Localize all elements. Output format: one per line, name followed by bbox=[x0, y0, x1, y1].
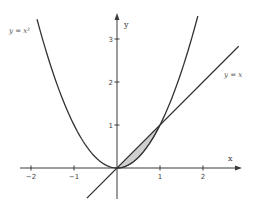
y-axis-arrow-icon bbox=[115, 13, 120, 20]
y-axis-label: y bbox=[123, 20, 129, 29]
y-tick-label: 2 bbox=[109, 79, 113, 87]
line-label: y = x bbox=[223, 71, 242, 79]
y-axis-ticks: 123 bbox=[109, 36, 120, 130]
x-axis-label: x bbox=[228, 154, 233, 163]
parabola-label: y = x² bbox=[8, 27, 30, 35]
x-axis-arrow-icon bbox=[235, 166, 242, 171]
x-tick-label: −2 bbox=[26, 173, 36, 181]
x-tick-label: 2 bbox=[201, 173, 205, 181]
y-tick-label: 3 bbox=[109, 36, 113, 44]
y-tick-label: 1 bbox=[109, 122, 113, 130]
x-tick-label: 1 bbox=[158, 173, 162, 181]
x-tick-label: −1 bbox=[69, 173, 79, 181]
graph-plot: −2−112 123 x y y = x² y = x bbox=[0, 0, 254, 206]
